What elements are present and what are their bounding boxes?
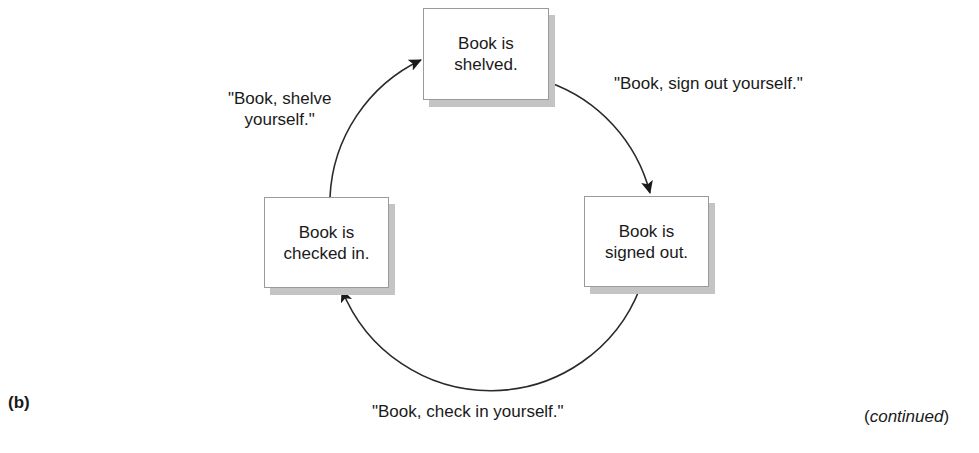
state-signed-out: Book is signed out. (584, 196, 709, 287)
arrow-checked-in-to-shelved (330, 60, 421, 197)
state-shelved: Book is shelved. (423, 8, 549, 100)
transition-label-sign-out: "Book, sign out yourself." (614, 73, 803, 94)
panel-label: (b) (8, 393, 30, 413)
state-checked-in-line1: Book is (284, 222, 370, 243)
state-checked-in: Book is checked in. (264, 197, 389, 288)
state-signed-out-line1: Book is (605, 221, 688, 242)
continued-note: (continued) (864, 407, 949, 427)
state-signed-out-line2: signed out. (605, 242, 688, 263)
arrow-signed-out-to-checked-in (342, 288, 640, 391)
transition-label-shelve: "Book, shelve yourself." (228, 88, 331, 130)
state-shelved-line1: Book is (454, 33, 517, 54)
state-shelved-line2: shelved. (454, 54, 517, 75)
arrow-shelved-to-signed-out (548, 82, 650, 193)
state-cycle-diagram: Book is shelved. Book is signed out. Boo… (0, 0, 979, 453)
state-checked-in-line2: checked in. (284, 243, 370, 264)
transition-label-check-in: "Book, check in yourself." (372, 401, 564, 422)
